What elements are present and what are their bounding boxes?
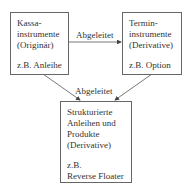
edge-label-to-strukturiert: Abgeleitet	[75, 86, 113, 96]
box-text: instrumente	[129, 29, 181, 40]
box-text: Produkte	[67, 129, 131, 140]
box-example: z.B.	[67, 160, 131, 171]
box-text: instrumente	[17, 29, 68, 40]
box-kassainstrumente: Kassa- instrumente (Originär) z.B. Anlei…	[10, 12, 69, 75]
box-example: z.B. Option	[129, 60, 181, 71]
arrow-termin-to-strukturiert	[115, 74, 152, 100]
box-text: Anleihen und	[67, 118, 131, 129]
box-text: (Derivative)	[67, 140, 131, 151]
edge-label-kassa-termin: Abgeleitet	[76, 30, 114, 40]
box-text: Kassa-	[17, 18, 68, 29]
box-text: Strukturierte	[67, 107, 131, 118]
box-strukturierte-produkte: Strukturierte Anleihen und Produkte (Der…	[60, 101, 132, 183]
box-text: Termin-	[129, 18, 181, 29]
box-example: z.B. Anleihe	[17, 60, 68, 71]
box-text: (Derivative)	[129, 40, 181, 51]
box-text: (Originär)	[17, 40, 68, 51]
box-example: Reverse Floater	[67, 171, 131, 182]
box-termininstrumente: Termin- instrumente (Derivative) z.B. Op…	[122, 12, 182, 75]
